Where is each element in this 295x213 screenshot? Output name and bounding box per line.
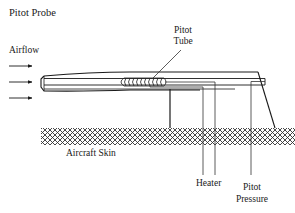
airflow-arrows (9, 66, 32, 98)
aircraft-skin-label: Aircraft Skin (66, 148, 116, 159)
pitot-tube-label-line2: Tube (173, 36, 192, 47)
aircraft-skin (41, 128, 295, 145)
probe-body (41, 72, 275, 128)
airflow-label: Airflow (9, 45, 39, 56)
pitot-tube-label-line1: Pitot (174, 25, 192, 36)
pitot-pressure-label-line2: Pressure (236, 194, 268, 205)
pitot-pressure-label-line1: Pitot (243, 182, 261, 193)
diagram-title: Pitot Probe (9, 7, 56, 18)
heater-label: Heater (196, 178, 221, 189)
pitot-tube-leader (152, 50, 181, 79)
